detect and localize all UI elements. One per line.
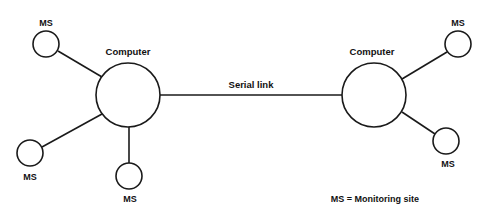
ms-left-bottom-label: MS [123,194,137,204]
ms-left-top-node [33,31,59,57]
link-right-top-ms [402,52,447,79]
serial-link-label: Serial link [229,79,275,90]
ms-left-top-label: MS [39,18,53,28]
link-right-bottom-ms [402,112,435,134]
computer-right-label: Computer [350,46,395,57]
computer-left-node [96,63,160,127]
link-left-bottomleft-ms [42,114,102,147]
computer-left-label: Computer [106,46,151,57]
ms-left-bottomleft-label: MS [23,172,37,182]
ms-right-bottom-node [433,128,459,154]
link-left-top-ms [58,51,102,77]
computer-right-node [342,63,406,127]
ms-right-top-label: MS [451,18,465,28]
ms-left-bottomleft-node [17,140,43,166]
ms-right-top-node [445,31,471,57]
ms-right-bottom-label: MS [441,159,455,169]
network-diagram: Computer Computer Serial link MS MS MS M… [0,0,486,214]
ms-left-bottom-node [116,163,142,189]
legend-label: MS = Monitoring site [331,194,419,204]
